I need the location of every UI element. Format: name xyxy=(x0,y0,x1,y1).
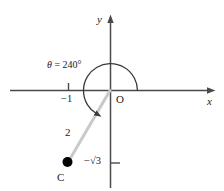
y-tick-label-minus-sqrt3: −√3 xyxy=(84,156,101,167)
radicand: 3 xyxy=(96,155,101,166)
diagram-canvas xyxy=(0,0,224,191)
radius-segment-to-c xyxy=(69,91,111,162)
segment-length-label: 2 xyxy=(65,127,71,138)
angle-measure-label: θ = 240° xyxy=(47,60,82,70)
origin-label: O xyxy=(116,94,124,105)
x-tick-label-minus-one: −1 xyxy=(61,94,72,105)
angle-value: 240° xyxy=(63,59,82,70)
angle-diagram-figure: y x O θ = 240° −1 −√3 2 C xyxy=(0,0,224,191)
x-axis-label: x xyxy=(207,96,212,107)
point-c-label: C xyxy=(57,172,64,183)
y-axis-label: y xyxy=(97,14,102,25)
point-c-marker xyxy=(63,157,73,167)
